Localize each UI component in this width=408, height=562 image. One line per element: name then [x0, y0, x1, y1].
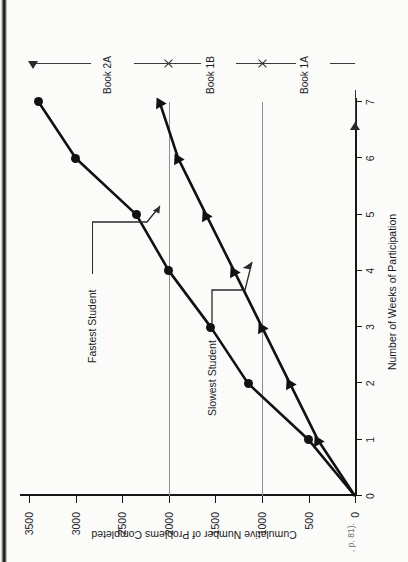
rotated-figure-stage: 0 1 2 3 4 5 6 7 0 500 1000 15 [0, 0, 408, 562]
rotation-wrapper: 0 1 2 3 4 5 6 7 0 500 1000 15 [0, 0, 408, 562]
figure-page: 0 1 2 3 4 5 6 7 0 500 1000 15 [0, 0, 408, 562]
slowest-student-leader-arrow [0, 0, 408, 562]
caption-fragment: , p. 81). [346, 523, 356, 552]
line-chart: 0 1 2 3 4 5 6 7 0 500 1000 15 [0, 0, 408, 562]
